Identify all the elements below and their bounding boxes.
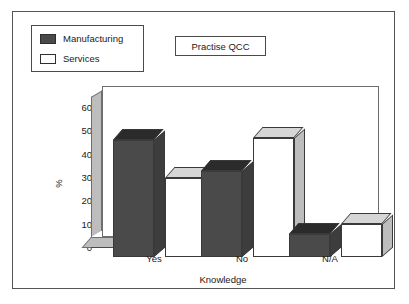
legend-item-manufacturing: Manufacturing (40, 32, 123, 46)
legend-label-services: Services (63, 54, 99, 64)
legend-label-manufacturing: Manufacturing (63, 34, 123, 44)
manufacturing-swatch-icon (40, 34, 56, 44)
bar-manufacturing-no (201, 171, 242, 257)
x-axis-label: Knowledge (60, 274, 386, 285)
legend-item-services: Services (40, 52, 99, 66)
bar-services-no (253, 138, 294, 257)
bar-services-na (341, 224, 382, 257)
bar-side-face (154, 131, 165, 257)
y-tick-40: 40 (70, 150, 92, 160)
y-tick-60: 60 (70, 103, 92, 113)
chart-title-box: Practise QCC (175, 36, 266, 56)
bar-side-face (382, 215, 393, 257)
bar-front-face (201, 171, 242, 257)
y-tick-30: 30 (70, 173, 92, 183)
y-axis-label: % (53, 179, 64, 187)
bar-services-yes (165, 178, 206, 257)
bar-side-face (242, 161, 253, 257)
chart-figure: Manufacturing Services Practise QCC 0 10… (12, 11, 395, 289)
services-swatch-icon (40, 54, 56, 64)
x-tick-no: No (212, 254, 272, 264)
plot-left-wall (91, 90, 102, 237)
chart-legend: Manufacturing Services (31, 25, 144, 72)
x-tick-yes: Yes (124, 254, 184, 264)
bar-front-face (113, 140, 154, 257)
y-tick-10: 10 (70, 220, 92, 230)
y-tick-20: 20 (70, 196, 92, 206)
x-tick-na: N/A (300, 254, 360, 264)
chart-title: Practise QCC (191, 41, 249, 52)
y-tick-50: 50 (70, 126, 92, 136)
plot-area: 0 10 20 30 40 50 60 % (60, 86, 386, 268)
bar-front-face (253, 138, 294, 257)
bar-front-face (165, 178, 206, 257)
bar-manufacturing-yes (113, 140, 154, 257)
bar-front-face (341, 224, 382, 257)
